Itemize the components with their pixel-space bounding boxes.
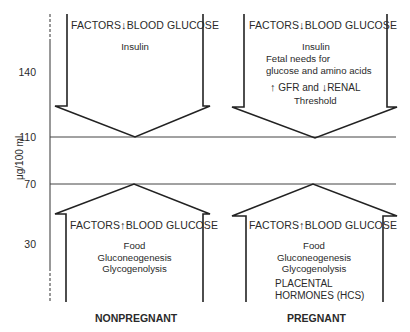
factor-item: Glycogenolysis	[102, 263, 167, 275]
y-tick-140: 140	[14, 66, 36, 78]
nonpregnant-decrease-arrow	[55, 14, 210, 137]
blood-glucose-label: BLOOD GLUCOSE	[305, 219, 397, 231]
factors-label: FACTORS	[249, 219, 299, 231]
blood-glucose-label: BLOOD GLUCOSE	[127, 19, 219, 31]
blood-glucose-label: BLOOD GLUCOSE	[126, 219, 218, 231]
pregnant-label: PREGNANT	[287, 312, 346, 324]
pregnant-decrease-header: FACTORS↓BLOOD GLUCOSE	[249, 19, 397, 31]
pregnant-increase-factors: Food Gluconeogenesis Glycogenolysis	[248, 240, 380, 275]
pregnant-decrease-gfr-line: ↑ GFR and ↓RENAL	[270, 81, 361, 93]
factor-item: Gluconeogenesis	[277, 252, 351, 264]
factors-label: FACTORS	[71, 19, 121, 31]
factor-item: PLACENTAL	[275, 278, 333, 290]
factor-item: HORMONES (HCS)	[275, 290, 364, 302]
factor-item: Gluconeogenesis	[97, 252, 171, 264]
factors-label: FACTORS	[70, 219, 120, 231]
pregnant-decrease-threshold: Threshold	[294, 95, 337, 106]
y-axis-label: μg/100 ml	[14, 136, 25, 180]
factors-label: FACTORS	[249, 19, 299, 31]
nonpregnant-decrease-header: FACTORS↓BLOOD GLUCOSE	[71, 19, 219, 31]
nonpregnant-decrease-factors: Insulin	[71, 41, 199, 53]
factor-item: Insulin	[121, 41, 149, 53]
factor-item: Glycogenolysis	[282, 263, 347, 275]
pregnant-decrease-insulin: Insulin	[302, 41, 330, 52]
nonpregnant-label: NONPREGNANT	[95, 312, 177, 324]
pregnant-decrease-fetal-needs: Fetal needs for glucose and amino acids	[266, 53, 372, 76]
gfr-label: GFR and	[278, 82, 319, 93]
up-arrow-icon: ↑	[270, 81, 276, 93]
pregnant-increase-header: FACTORS↑BLOOD GLUCOSE	[249, 219, 397, 231]
blood-glucose-label: BLOOD GLUCOSE	[305, 19, 397, 31]
pregnant-decrease-arrow	[232, 14, 397, 138]
factor-item: Food	[303, 240, 325, 252]
factor-item: Fetal needs for	[266, 53, 330, 65]
renal-label: RENAL	[327, 82, 360, 93]
pregnant-increase-placental-hormones: PLACENTAL HORMONES (HCS)	[275, 278, 364, 302]
nonpregnant-increase-factors: Food Gluconeogenesis Glycogenolysis	[70, 240, 199, 275]
y-tick-30: 30	[14, 238, 36, 250]
nonpregnant-increase-header: FACTORS↑BLOOD GLUCOSE	[70, 219, 218, 231]
factor-item: Food	[124, 240, 146, 252]
factor-item: glucose and amino acids	[266, 65, 372, 77]
